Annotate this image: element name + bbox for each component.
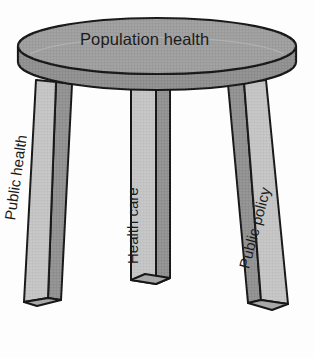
leg-middle (131, 80, 170, 284)
leg-right (228, 80, 288, 310)
leg-left (24, 80, 72, 306)
stool-seat (18, 18, 296, 90)
stool-illustration (0, 0, 314, 358)
diagram-canvas: Population health Public health Health c… (0, 0, 314, 358)
